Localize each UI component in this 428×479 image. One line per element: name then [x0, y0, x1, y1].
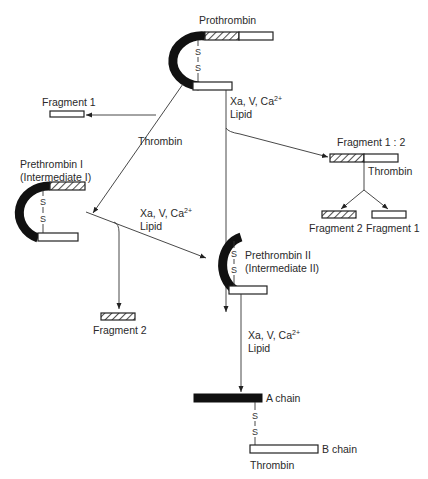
prethrombin2-molecule: S S Prethrombin II (Intermediate II)	[223, 237, 320, 294]
prothrombin-activation-diagram: Prothrombin S S Thrombin Fragment 1 Xa, …	[0, 0, 428, 479]
svg-text:Lipid: Lipid	[140, 220, 162, 232]
edge-prothrombin-xa: Xa, V, Ca2+ Lipid	[226, 90, 328, 312]
prethrombin1-molecule: Prethrombin I (Intermediate I) S S	[19, 158, 91, 241]
svg-text:S: S	[40, 214, 46, 224]
edge-label-thrombin: Thrombin	[138, 135, 183, 147]
fragment2-left: Fragment 2	[93, 313, 147, 336]
svg-text:Lipid: Lipid	[248, 342, 270, 354]
svg-text:Xa, V, Ca2+: Xa, V, Ca2+	[230, 95, 282, 107]
prothrombin-kringle-arc	[173, 36, 205, 86]
svg-text:(Intermediate I): (Intermediate I)	[20, 171, 91, 183]
svg-text:S: S	[40, 197, 46, 207]
fragment2-right: Fragment 2	[309, 211, 363, 234]
svg-text:Prethrombin II: Prethrombin II	[245, 249, 311, 261]
svg-text:Xa, V, Ca2+: Xa, V, Ca2+	[248, 329, 300, 341]
svg-text:Fragment 2: Fragment 2	[309, 222, 363, 234]
fragment1-top: Fragment 1	[42, 96, 96, 117]
edge-prothrombin-thrombin: Thrombin	[86, 84, 183, 213]
prothrombin-open-segment	[239, 32, 273, 40]
prothrombin-molecule: Prothrombin S S	[173, 14, 273, 90]
svg-text:S: S	[252, 411, 258, 421]
b-chain-bar	[250, 445, 318, 453]
svg-text:Fragment 1: Fragment 1	[42, 96, 96, 108]
svg-text:Fragment 2: Fragment 2	[93, 324, 147, 336]
svg-text:S: S	[195, 63, 201, 73]
svg-text:Xa, V, Ca2+: Xa, V, Ca2+	[140, 207, 192, 219]
a-chain-bar	[194, 394, 262, 402]
disulfide-s: S	[195, 47, 201, 57]
svg-text:Prethrombin I: Prethrombin I	[20, 158, 83, 170]
svg-text:B chain: B chain	[322, 443, 357, 455]
svg-text:S: S	[231, 249, 237, 259]
fragment1-right: Fragment 1	[366, 211, 420, 234]
prothrombin-label: Prothrombin	[199, 14, 256, 26]
fragment12: Fragment 1 : 2 Thrombin	[330, 136, 413, 209]
svg-text:Fragment 1 : 2: Fragment 1 : 2	[337, 136, 405, 148]
edge-prethrombin2-xa: Xa, V, Ca2+ Lipid	[241, 294, 300, 392]
svg-text:(Intermediate II): (Intermediate II)	[245, 262, 319, 274]
edge-prethrombin1-xa: Xa, V, Ca2+ Lipid	[86, 207, 206, 309]
thrombin-molecule: A chain S S B chain Thrombin	[194, 392, 357, 471]
svg-text:A chain: A chain	[266, 392, 301, 404]
svg-text:Lipid: Lipid	[230, 108, 252, 120]
svg-text:Thrombin: Thrombin	[368, 165, 413, 177]
svg-text:Fragment 1: Fragment 1	[366, 222, 420, 234]
fragment1-bar	[50, 111, 84, 117]
prothrombin-hatched-segment	[205, 32, 239, 40]
prothrombin-tail-segment	[193, 82, 232, 90]
thrombin-label: Thrombin	[250, 459, 295, 471]
svg-text:S: S	[231, 265, 237, 275]
svg-text:S: S	[252, 427, 258, 437]
